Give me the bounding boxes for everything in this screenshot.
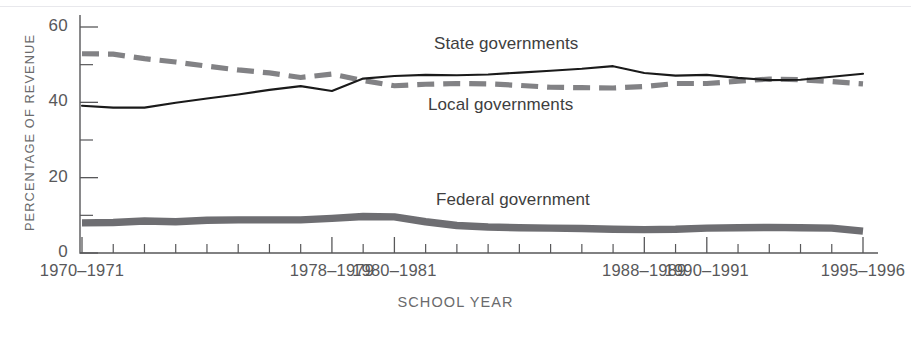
x-axis-title: SCHOOL YEAR (0, 294, 911, 310)
series-line-local (82, 54, 863, 88)
series-label-state: State governments (434, 34, 578, 54)
y-axis-tick-label: 0 (22, 242, 68, 262)
x-axis-tick-label: 1980–1981 (352, 261, 436, 280)
x-axis-tick-label: 1995–1996 (821, 261, 905, 280)
series-label-federal: Federal government (436, 190, 590, 210)
series-line-federal (82, 216, 863, 231)
y-axis-minor-ticks (80, 65, 93, 216)
x-axis-tick-label: 1970–1971 (40, 261, 124, 280)
series-label-local: Local governments (428, 95, 573, 115)
chart-figure: 0204060 1970–19711978–19791980–19811988–… (0, 0, 911, 337)
x-axis-tick-label: 1990–1991 (665, 261, 749, 280)
x-axis-ticks (82, 237, 863, 253)
y-axis-title: PERCENTAGE OF REVENUE (22, 28, 37, 238)
